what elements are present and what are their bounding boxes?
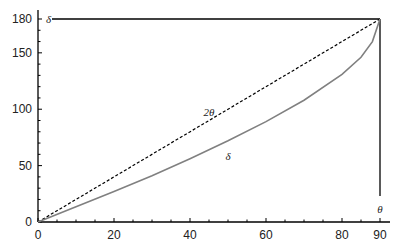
annotation-label: δ bbox=[225, 150, 231, 162]
y-tick-label: 150 bbox=[12, 46, 32, 60]
y-tick-label: 180 bbox=[12, 12, 32, 26]
x-tick-label: 40 bbox=[183, 228, 197, 242]
annotation-label: 2θ bbox=[204, 106, 216, 118]
y-tick-label: 50 bbox=[19, 159, 33, 173]
chart: 020406080900501001501802θδδθ bbox=[0, 0, 402, 250]
x-tick-label: 80 bbox=[335, 228, 349, 242]
x-tick-label: 20 bbox=[107, 228, 121, 242]
x-axis-label: θ bbox=[377, 203, 383, 215]
y-axis-label: δ bbox=[46, 13, 52, 25]
y-tick-label: 100 bbox=[12, 102, 32, 116]
y-tick-label: 0 bbox=[25, 215, 32, 229]
series-2theta bbox=[38, 19, 380, 222]
series-delta bbox=[38, 19, 380, 222]
x-tick-label: 60 bbox=[259, 228, 273, 242]
x-tick-label: 90 bbox=[373, 228, 387, 242]
x-tick-label: 0 bbox=[35, 228, 42, 242]
